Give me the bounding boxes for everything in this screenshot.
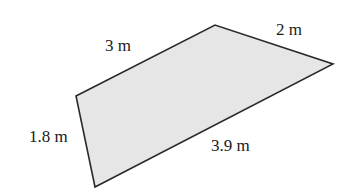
side-label-top-left: 3 m: [105, 37, 131, 54]
side-label-top-right: 2 m: [276, 21, 302, 38]
side-label-left: 1.8 m: [29, 128, 68, 145]
diagram-canvas: 3 m 2 m 3.9 m 1.8 m: [0, 0, 355, 196]
side-label-bottom: 3.9 m: [211, 137, 250, 154]
